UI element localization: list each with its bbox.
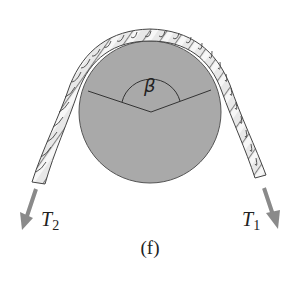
angle-label-beta: β bbox=[143, 75, 156, 96]
figure-caption: (f) bbox=[141, 237, 160, 259]
tension-arrow-right bbox=[264, 188, 280, 229]
rope-over-pulley-diagram: β T2 T1 (f) bbox=[0, 0, 295, 281]
tension-label-t1: T1 bbox=[242, 208, 260, 233]
tension-arrow-left bbox=[20, 189, 36, 230]
arrowhead-right-icon bbox=[266, 210, 280, 229]
tension-label-t2: T2 bbox=[41, 208, 59, 233]
